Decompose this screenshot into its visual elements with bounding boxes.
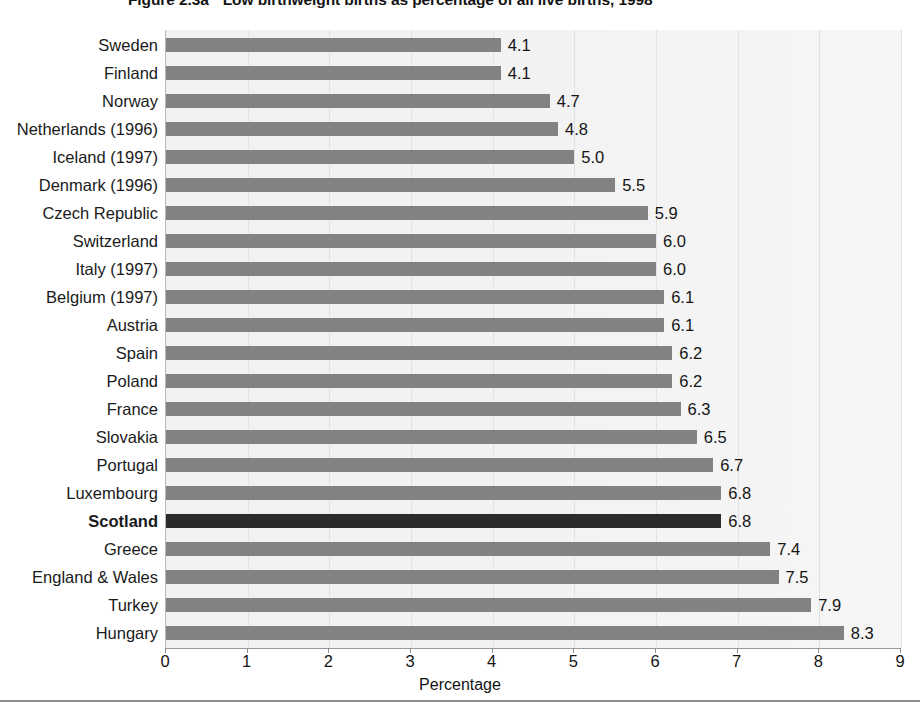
category-label: Czech Republic	[42, 199, 158, 227]
bar-value-label: 6.0	[663, 255, 686, 283]
bar-value-label: 5.5	[622, 171, 645, 199]
figure-title: Figure 2.3aLow birthweight births as per…	[0, 0, 920, 15]
x-tick-label: 1	[227, 652, 267, 671]
figure-number: Figure 2.3a	[128, 0, 209, 8]
bar	[166, 430, 697, 444]
bar	[166, 626, 844, 640]
bar-row: Italy (1997)6.0	[0, 255, 920, 283]
category-label: Finland	[104, 59, 158, 87]
bar	[166, 570, 779, 584]
bar-row: Luxembourg6.8	[0, 479, 920, 507]
bar-value-label: 4.8	[565, 115, 588, 143]
x-axis-label: Percentage	[0, 676, 920, 694]
x-tick-label: 3	[390, 652, 430, 671]
bar-row: Switzerland6.0	[0, 227, 920, 255]
bar	[166, 318, 664, 332]
bar-row: Portugal6.7	[0, 451, 920, 479]
category-label: Greece	[104, 535, 158, 563]
category-label: Denmark (1996)	[39, 171, 158, 199]
bar-value-label: 8.3	[851, 619, 874, 647]
category-label: Sweden	[98, 31, 158, 59]
bar-value-label: 6.5	[704, 423, 727, 451]
bar-row: Netherlands (1996)4.8	[0, 115, 920, 143]
bar	[166, 94, 550, 108]
bar-value-label: 5.9	[655, 199, 678, 227]
bar	[166, 150, 574, 164]
bar	[166, 122, 558, 136]
bar-row: England & Wales7.5	[0, 563, 920, 591]
bar-row: Iceland (1997)5.0	[0, 143, 920, 171]
bar	[166, 486, 721, 500]
bar-row: Finland4.1	[0, 59, 920, 87]
bar	[166, 290, 664, 304]
bar-row: Hungary8.3	[0, 619, 920, 647]
bar-value-label: 6.3	[688, 395, 711, 423]
category-label: Scotland	[88, 507, 158, 535]
bar	[166, 66, 501, 80]
category-label: Slovakia	[96, 423, 158, 451]
bar	[166, 38, 501, 52]
bar	[166, 402, 681, 416]
bar-row: Czech Republic5.9	[0, 199, 920, 227]
category-label: England & Wales	[32, 563, 158, 591]
x-tick-label: 9	[880, 652, 920, 671]
category-label: Spain	[116, 339, 158, 367]
bar-value-label: 4.7	[557, 87, 580, 115]
x-tick-label: 2	[308, 652, 348, 671]
bar	[166, 206, 648, 220]
figure-caption: Low birthweight births as percentage of …	[223, 0, 653, 8]
bar	[166, 234, 656, 248]
bar-value-label: 6.8	[728, 479, 751, 507]
bar-row: Poland6.2	[0, 367, 920, 395]
bar-value-label: 6.7	[720, 451, 743, 479]
category-label: Portugal	[97, 451, 158, 479]
bar-row: Turkey7.9	[0, 591, 920, 619]
bar-row: Belgium (1997)6.1	[0, 283, 920, 311]
figure-container: Figure 2.3aLow birthweight births as per…	[0, 0, 920, 702]
bar-value-label: 6.8	[728, 507, 751, 535]
x-tick-label: 5	[553, 652, 593, 671]
category-label: Belgium (1997)	[46, 283, 158, 311]
category-label: Hungary	[96, 619, 158, 647]
bar-value-label: 6.1	[671, 311, 694, 339]
category-label: Luxembourg	[66, 479, 158, 507]
x-tick-label: 8	[798, 652, 838, 671]
bar	[166, 374, 672, 388]
x-tick-label: 4	[472, 652, 512, 671]
x-tick-label: 7	[717, 652, 757, 671]
category-label: Switzerland	[73, 227, 158, 255]
bar-value-label: 6.2	[679, 339, 702, 367]
category-label: Turkey	[108, 591, 158, 619]
bar-row: Greece7.4	[0, 535, 920, 563]
bar	[166, 458, 713, 472]
category-label: Austria	[107, 311, 158, 339]
bar	[166, 346, 672, 360]
bar-row: Denmark (1996)5.5	[0, 171, 920, 199]
bar-row: Austria6.1	[0, 311, 920, 339]
category-label: Poland	[107, 367, 158, 395]
bar-value-label: 4.1	[508, 31, 531, 59]
bar-value-label: 6.1	[671, 283, 694, 311]
category-label: Norway	[102, 87, 158, 115]
bar-highlighted	[166, 514, 721, 528]
bar-value-label: 7.9	[818, 591, 841, 619]
x-tick-label: 6	[635, 652, 675, 671]
bar-row: Slovakia6.5	[0, 423, 920, 451]
bar-row: Scotland6.8	[0, 507, 920, 535]
bar-value-label: 5.0	[581, 143, 604, 171]
bar-row: France6.3	[0, 395, 920, 423]
bar-value-label: 7.4	[777, 535, 800, 563]
bar	[166, 598, 811, 612]
category-label: Netherlands (1996)	[17, 115, 158, 143]
bar-row: Sweden4.1	[0, 31, 920, 59]
category-label: France	[107, 395, 158, 423]
category-label: Italy (1997)	[75, 255, 158, 283]
bar	[166, 542, 770, 556]
x-tick-label: 0	[145, 652, 185, 671]
bar-value-label: 4.1	[508, 59, 531, 87]
x-axis-line	[165, 648, 901, 649]
bar-value-label: 7.5	[786, 563, 809, 591]
bar-row: Spain6.2	[0, 339, 920, 367]
category-label: Iceland (1997)	[53, 143, 159, 171]
bar	[166, 178, 615, 192]
